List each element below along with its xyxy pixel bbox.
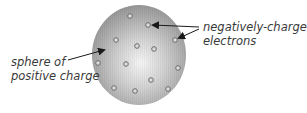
electron-5 — [152, 47, 157, 52]
electron-3 — [114, 38, 119, 43]
electron-8 — [124, 62, 129, 67]
electrons-label-line2: electrons — [203, 34, 307, 48]
plum-pudding-diagram: sphere of positive charge negatively-cha… — [0, 0, 307, 113]
electron-10 — [149, 78, 154, 83]
electron-6 — [173, 38, 178, 43]
electron-9 — [176, 66, 181, 71]
electron-1 — [128, 14, 133, 19]
electrons-label: negatively-charged electrons — [203, 20, 307, 48]
arrow-electron-2 — [179, 29, 199, 38]
electrons-label-line1: negatively-charged — [203, 20, 307, 34]
sphere-of-positive-charge — [92, 5, 186, 105]
sphere-label-line2: positive charge — [11, 69, 100, 83]
electron-4 — [135, 44, 140, 49]
sphere-label: sphere of positive charge — [11, 55, 100, 83]
electron-13 — [166, 87, 171, 92]
electron-12 — [133, 89, 138, 94]
electron-11 — [112, 86, 117, 91]
sphere-label-line1: sphere of — [11, 55, 100, 69]
electron-2 — [146, 23, 151, 28]
